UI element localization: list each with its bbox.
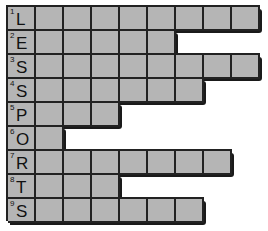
answer-cell[interactable] <box>120 7 148 31</box>
answer-cell[interactable] <box>92 175 120 199</box>
given-letter: P <box>16 107 27 124</box>
answer-cell[interactable] <box>148 55 176 79</box>
crossword-row-5: 5P <box>6 101 120 125</box>
crossword-row-2: 2E <box>6 29 176 53</box>
answer-cell[interactable] <box>64 7 92 31</box>
answer-cell[interactable] <box>148 79 176 103</box>
given-letter: R <box>16 155 28 172</box>
answer-cell[interactable] <box>64 31 92 55</box>
answer-cell[interactable] <box>64 151 92 175</box>
answer-cell[interactable] <box>64 175 92 199</box>
answer-cell[interactable] <box>148 7 176 31</box>
crossword-row-7: 7R <box>6 149 232 173</box>
answer-cell[interactable] <box>36 31 64 55</box>
clue-start-cell[interactable]: 2E <box>8 31 36 55</box>
clue-number: 4 <box>10 80 14 88</box>
row-cells: 2E <box>6 29 176 53</box>
answer-cell[interactable] <box>36 55 64 79</box>
given-letter: S <box>16 83 27 100</box>
crossword-row-1: 1L <box>6 5 260 29</box>
crossword-row-3: 3S <box>6 53 260 77</box>
answer-cell[interactable] <box>232 7 260 31</box>
answer-cell[interactable] <box>176 151 204 175</box>
given-letter: E <box>16 35 27 52</box>
answer-cell[interactable] <box>92 79 120 103</box>
answer-cell[interactable] <box>92 7 120 31</box>
clue-start-cell[interactable]: 7R <box>8 151 36 175</box>
clue-number: 5 <box>10 104 14 112</box>
clue-start-cell[interactable]: 1L <box>8 7 36 31</box>
answer-cell[interactable] <box>120 199 148 223</box>
row-cells: 6O <box>6 125 64 149</box>
answer-cell[interactable] <box>232 55 260 79</box>
answer-cell[interactable] <box>92 151 120 175</box>
answer-cell[interactable] <box>64 103 92 127</box>
clue-number: 7 <box>10 152 14 160</box>
crossword-row-9: 9S <box>6 197 204 221</box>
answer-cell[interactable] <box>92 199 120 223</box>
clue-start-cell[interactable]: 9S <box>8 199 36 223</box>
answer-cell[interactable] <box>92 55 120 79</box>
answer-cell[interactable] <box>120 31 148 55</box>
given-letter: O <box>16 131 29 148</box>
answer-cell[interactable] <box>176 7 204 31</box>
clue-start-cell[interactable]: 6O <box>8 127 36 151</box>
answer-cell[interactable] <box>176 55 204 79</box>
answer-cell[interactable] <box>176 79 204 103</box>
answer-cell[interactable] <box>148 151 176 175</box>
clue-number: 3 <box>10 56 14 64</box>
row-cells: 3S <box>6 53 260 77</box>
answer-cell[interactable] <box>120 55 148 79</box>
given-letter: S <box>16 203 27 220</box>
answer-cell[interactable] <box>204 55 232 79</box>
row-cells: 1L <box>6 5 260 29</box>
crossword-row-6: 6O <box>6 125 64 149</box>
clue-start-cell[interactable]: 3S <box>8 55 36 79</box>
row-cells: 4S <box>6 77 204 101</box>
clue-number: 8 <box>10 176 14 184</box>
answer-cell[interactable] <box>204 7 232 31</box>
answer-cell[interactable] <box>36 151 64 175</box>
clue-start-cell[interactable]: 5P <box>8 103 36 127</box>
answer-cell[interactable] <box>36 127 64 151</box>
row-cells: 5P <box>6 101 120 125</box>
answer-cell[interactable] <box>64 55 92 79</box>
answer-cell[interactable] <box>148 199 176 223</box>
row-cells: 7R <box>6 149 232 173</box>
answer-cell[interactable] <box>64 79 92 103</box>
answer-cell[interactable] <box>204 151 232 175</box>
answer-cell[interactable] <box>176 199 204 223</box>
answer-cell[interactable] <box>92 31 120 55</box>
crossword-row-8: 8T <box>6 173 120 197</box>
answer-cell[interactable] <box>36 7 64 31</box>
clue-number: 6 <box>10 128 14 136</box>
answer-cell[interactable] <box>64 199 92 223</box>
clue-number: 2 <box>10 32 14 40</box>
crossword-row-4: 4S <box>6 77 204 101</box>
answer-cell[interactable] <box>120 151 148 175</box>
answer-cell[interactable] <box>92 103 120 127</box>
row-cells: 8T <box>6 173 120 197</box>
given-letter: T <box>16 179 26 196</box>
answer-cell[interactable] <box>36 79 64 103</box>
clue-start-cell[interactable]: 4S <box>8 79 36 103</box>
clue-number: 1 <box>10 8 14 16</box>
answer-cell[interactable] <box>36 199 64 223</box>
given-letter: S <box>16 59 27 76</box>
answer-cell[interactable] <box>120 79 148 103</box>
given-letter: L <box>16 11 25 28</box>
clue-number: 9 <box>10 200 14 208</box>
answer-cell[interactable] <box>148 31 176 55</box>
answer-cell[interactable] <box>36 103 64 127</box>
answer-cell[interactable] <box>36 175 64 199</box>
row-cells: 9S <box>6 197 204 221</box>
clue-start-cell[interactable]: 8T <box>8 175 36 199</box>
